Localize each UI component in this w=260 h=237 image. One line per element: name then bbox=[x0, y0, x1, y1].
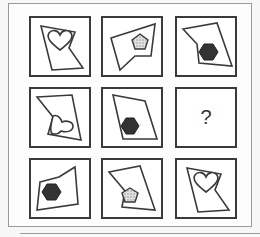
hexagon-in-polygon-figure bbox=[31, 160, 89, 217]
hexagon-icon bbox=[199, 44, 218, 60]
question-mark: ? bbox=[177, 89, 235, 146]
cell-r2c1 bbox=[29, 87, 91, 148]
heart-in-polygon-figure bbox=[31, 18, 89, 75]
cell-r1c3 bbox=[175, 16, 237, 77]
heart-icon bbox=[48, 31, 72, 50]
heart-in-polygon-figure bbox=[177, 160, 235, 217]
divider bbox=[20, 233, 260, 234]
hexagon-icon bbox=[121, 118, 139, 134]
pentagon-in-polygon-figure bbox=[103, 160, 161, 217]
pentagon-icon bbox=[132, 34, 148, 49]
heart-icon bbox=[51, 116, 73, 134]
cell-r3c3 bbox=[175, 158, 237, 219]
hexagon-icon bbox=[42, 184, 61, 200]
cell-r2c2 bbox=[101, 87, 163, 148]
cell-r2c3-missing[interactable]: ? bbox=[175, 87, 237, 148]
cell-r1c1 bbox=[29, 16, 91, 77]
pentagon-in-polygon-figure bbox=[103, 18, 161, 75]
hexagon-in-polygon-figure bbox=[103, 89, 161, 146]
hexagon-in-polygon-figure bbox=[177, 18, 235, 75]
cell-r3c1 bbox=[29, 158, 91, 219]
cell-r3c2 bbox=[101, 158, 163, 219]
cell-r1c2 bbox=[101, 16, 163, 77]
heart-icon bbox=[194, 173, 218, 192]
heart-in-polygon-figure bbox=[31, 89, 89, 146]
